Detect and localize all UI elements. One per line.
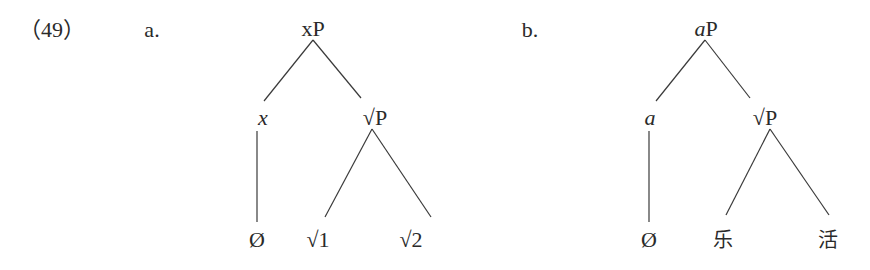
- root-head: x: [301, 16, 312, 41]
- edge-rootP-root2: [372, 129, 431, 217]
- tree-b-right-node: √P: [753, 107, 777, 129]
- root-suffix: P: [705, 16, 717, 41]
- root-suffix: P: [312, 16, 324, 41]
- edge-aP-a: [656, 40, 705, 101]
- tree-b-leaf-le: 乐: [713, 230, 733, 250]
- example-number: （49）: [19, 19, 85, 41]
- edge-rootP-le: [726, 129, 770, 215]
- tree-b-root-node: aP: [694, 18, 717, 40]
- edge-rootP-huo: [770, 129, 829, 215]
- tree-a-root-node: xP: [301, 18, 324, 40]
- tree-a-leaf-root1: √1: [306, 229, 329, 251]
- root-head: a: [694, 16, 705, 41]
- edge-aP-rootP: [705, 40, 750, 98]
- tree-a-leaf-null: Ø: [249, 229, 265, 251]
- node-suffix: P: [375, 105, 387, 130]
- root-symbol: √: [753, 105, 765, 130]
- edge-rootP-root1: [325, 129, 372, 217]
- tree-b-leaf-null: Ø: [641, 229, 657, 251]
- node-suffix: P: [765, 105, 777, 130]
- tree-a-label: a.: [144, 19, 159, 41]
- tree-a-leaf-root2: √2: [399, 229, 422, 251]
- tree-b-label: b.: [522, 19, 539, 41]
- edge-xP-rootP: [313, 40, 361, 98]
- tree-b-left-node: a: [645, 107, 656, 129]
- tree-a-right-node: √P: [363, 107, 387, 129]
- tree-a-left-node: x: [258, 107, 268, 129]
- edge-xP-x: [264, 40, 313, 101]
- tree-edges: [0, 0, 870, 270]
- tree-b-leaf-huo: 活: [818, 230, 838, 250]
- root-symbol: √: [363, 105, 375, 130]
